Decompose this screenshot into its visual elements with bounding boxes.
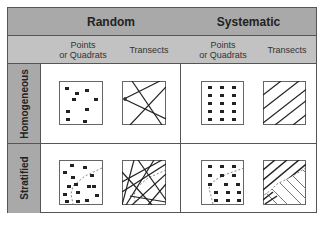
homogeneous-systematic-points-diagram: [201, 81, 244, 125]
stratified-random-transects-diagram: [122, 160, 166, 205]
column-divider: [180, 64, 181, 213]
group-systematic: Systematic: [181, 15, 316, 29]
row-label-stratified-cell: Stratified: [8, 143, 41, 213]
cropped-caption-strip: [7, 224, 307, 231]
stratified-systematic-points-diagram: [201, 160, 244, 205]
header-row-methods: Points or Quadrats Transects Points or Q…: [8, 36, 316, 64]
sampling-design-table: Random Systematic Points or Quadrats Tra…: [7, 7, 317, 213]
homogeneous-random-points-diagram: [59, 81, 103, 125]
row-label-homogeneous: Homogeneous: [19, 69, 30, 138]
stratified-random-points-diagram: [59, 160, 103, 205]
row-label-homogeneous-cell: Homogeneous: [8, 64, 41, 143]
subcol-systematic-transects: Transects: [258, 45, 316, 55]
stratified-systematic-transects-diagram: [263, 160, 306, 205]
subcol-random-points: Points or Quadrats: [48, 40, 118, 60]
header-row-groups: Random Systematic: [8, 8, 316, 36]
homogeneous-random-transects-diagram: [122, 81, 166, 125]
subcol-systematic-points: Points or Quadrats: [188, 40, 258, 60]
group-random: Random: [41, 15, 181, 29]
row-divider: [8, 143, 316, 144]
subcol-random-transects: Transects: [118, 45, 180, 55]
row-label-stratified: Stratified: [19, 156, 30, 199]
homogeneous-systematic-transects-diagram: [263, 81, 306, 125]
